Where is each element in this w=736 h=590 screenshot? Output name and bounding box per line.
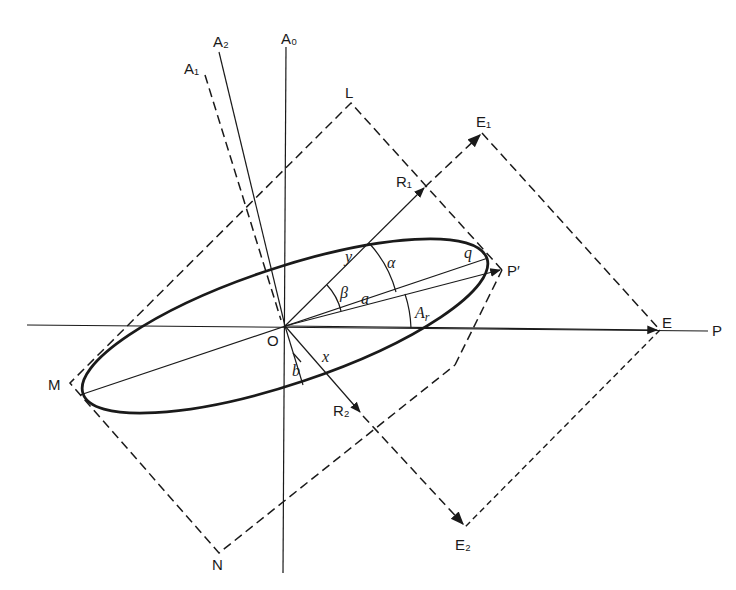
- vector-o-r1: [285, 188, 424, 326]
- r2-to-e2-vector: [363, 416, 463, 524]
- symbol-q: q: [464, 244, 472, 262]
- axis-a0: [283, 47, 286, 573]
- label-a0: A₀: [281, 30, 297, 47]
- symbol-beta: β: [339, 284, 348, 302]
- symbol-a: a: [361, 290, 369, 307]
- label-n: N: [212, 556, 223, 573]
- label-o: O: [267, 332, 279, 349]
- label-r1: R₁: [396, 173, 412, 190]
- label-pprime: P′: [507, 262, 520, 279]
- axis-a1: [205, 75, 281, 320]
- beta-arc: [327, 285, 341, 311]
- axis-horizontal: [27, 325, 708, 331]
- label-e1: E₁: [476, 113, 491, 130]
- ar-arc: [405, 294, 411, 328]
- symbol-alpha: α: [387, 254, 396, 271]
- e1-to-e-edge: [482, 133, 660, 330]
- polarization-ellipse-diagram: A₀ A₂ A₁ L E₁ R₁ P′ E P M N E₂ R₂ O y α …: [0, 0, 736, 590]
- symbol-y: y: [343, 248, 353, 266]
- label-e: E: [662, 314, 672, 331]
- label-p: P: [712, 322, 722, 339]
- label-m: M: [48, 376, 61, 393]
- label-a1: A₁: [184, 60, 199, 77]
- label-e2: E₂: [455, 536, 471, 553]
- label-r2: R₂: [333, 402, 350, 419]
- symbol-ar: Ar: [414, 304, 430, 324]
- e-to-e2-edge: [465, 330, 660, 527]
- r1-to-e1-vector: [425, 135, 480, 187]
- label-l: L: [345, 84, 353, 101]
- symbol-b: b: [292, 362, 300, 379]
- symbol-x: x: [321, 348, 329, 365]
- label-a2: A₂: [213, 33, 229, 50]
